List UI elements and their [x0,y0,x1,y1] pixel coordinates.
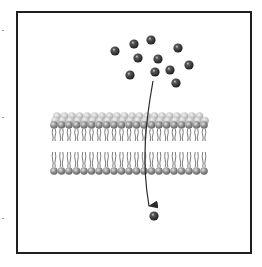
lipid-tail [172,129,173,141]
lipid-head [170,167,178,175]
lipid-tail [107,129,108,141]
lipid-tail [182,129,183,141]
lipid-tail [82,129,83,141]
edge-mark [2,117,4,118]
lipid-head [155,167,163,175]
lipid-tail [152,152,153,167]
lipid-head [200,167,208,175]
solute-molecule [184,60,193,69]
lipid-head [193,167,201,175]
lipid-head [133,121,141,129]
lipid-tail [165,152,166,167]
lipid-tail [62,129,63,141]
lipid-tail [137,152,138,167]
lipid-tail [107,152,108,167]
lipid-head [73,121,81,129]
lipid-tail [195,152,196,167]
lipid-tail [92,152,93,167]
lipid-head [95,121,103,129]
lipid-tail [62,152,63,167]
lipid-tail [137,129,138,141]
solute-molecule [173,43,182,52]
lipid-head [65,167,73,175]
lipid-head [170,121,178,129]
lipid-head [95,167,103,175]
lipid-tail [167,129,168,141]
lipid-tail [197,152,198,167]
lipid-tail [75,129,76,141]
lipid-tail [85,129,86,141]
solute-molecule [171,78,180,87]
phospholipid-bilayer [50,112,209,175]
lipid-head [50,121,58,129]
lipid-tail [197,129,198,141]
lipid-tail [127,129,128,141]
lipid-tail [205,129,206,141]
lipid-tail [85,152,86,167]
lipid-head [73,167,81,175]
lipid-tail [122,129,123,141]
lipid-tail [130,129,131,141]
lipid-head [148,167,156,175]
lipid-tail [187,152,188,167]
lipid-tail [100,152,101,167]
lipid-head [163,121,171,129]
lipid-head [88,167,96,175]
lipid-tail [52,152,53,167]
lipid-head [118,121,126,129]
edge-mark [2,218,4,219]
lipid-tail [97,152,98,167]
lipid-tail [75,152,76,167]
lipid-tail [67,152,68,167]
lipid-head [125,167,133,175]
lipid-head [58,121,66,129]
lipid-tail [157,152,158,167]
lipid-head [178,167,186,175]
diagram-stage [0,0,262,267]
lipid-tail [112,152,113,167]
solute-molecule [125,70,134,79]
lipid-head [103,167,111,175]
solute-molecule [146,35,155,44]
lipid-head [110,167,118,175]
lipid-tail [90,129,91,141]
lipid-tail [175,152,176,167]
lipid-tail [115,129,116,141]
lipid-tail [122,152,123,167]
lipid-tail [55,129,56,141]
lipid-tail [165,129,166,141]
lipid-tail [135,152,136,167]
lipid-tail [127,152,128,167]
lipid-tail [130,152,131,167]
lipid-head [133,167,141,175]
lipid-tail [182,152,183,167]
lipid-head [103,121,111,129]
lipid-tail [195,129,196,141]
lipid-tail [70,152,71,167]
lipid-tail [135,129,136,141]
lipid-tail [160,129,161,141]
lipid-tail [97,129,98,141]
solute-molecule [153,54,162,63]
lipid-head [110,121,118,129]
lipid-tail [100,129,101,141]
diffusion-arrow-icon [145,81,153,206]
lipid-tail [190,152,191,167]
lipid-tail [180,129,181,141]
lipid-tail [105,152,106,167]
solute-molecule [133,53,142,62]
lipid-tail [190,129,191,141]
lipid-tail [202,152,203,167]
solute-molecule [150,67,159,76]
lipid-head [178,121,186,129]
diffused-molecule [149,211,158,220]
lipid-tail [55,152,56,167]
lipid-tail [202,129,203,141]
lipid-tail [175,129,176,141]
lipid-tail [67,129,68,141]
lipid-head [80,167,88,175]
lipid-tail [77,129,78,141]
lipid-tail [77,152,78,167]
lipid-head [140,167,148,175]
lipid-tail [142,129,143,141]
